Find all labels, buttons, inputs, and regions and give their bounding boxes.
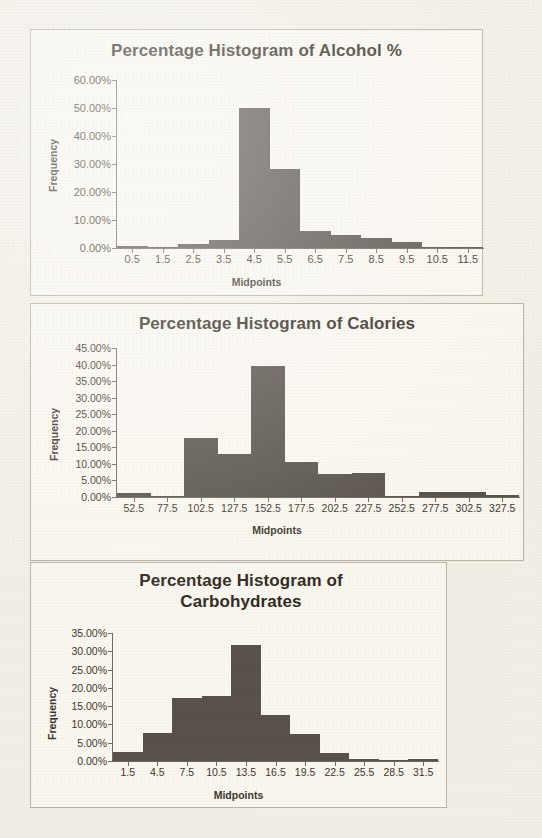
histogram-bar [361,238,392,248]
histogram-bar [331,235,362,248]
x-axis-label-calories: Midpoints [31,524,523,536]
x-axis-tick-mark [132,249,133,253]
x-axis-tick-label: 10.5 [422,253,453,265]
x-axis-tick-label: 177.5 [285,502,319,514]
x-axis-tick-label: 5.5 [270,253,301,265]
histogram-bar [231,645,261,761]
x-axis-tick-mark [305,762,306,766]
y-axis-ticks-alcohol: 0.00%10.00%20.00%30.00%40.00%50.00%60.00… [55,80,111,248]
histogram-bar [422,247,453,248]
x-axis-tick-mark [469,498,470,502]
x-axis-tick-mark [407,249,408,253]
y-axis-tick-label: 25.00% [75,408,111,420]
x-axis-tick-mark [423,762,424,766]
y-axis-tick-label: 10.00% [75,458,111,470]
y-axis-tick-label: 50.00% [74,102,111,114]
y-axis-tick-label: 15.00% [75,441,111,453]
chart-panel-carbohydrates: Percentage Histogram of Carbohydrates Fr… [30,562,447,808]
bar-series-alcohol [117,80,483,248]
y-axis-tick-label: 30.00% [71,645,107,657]
x-axis-tick-mark [285,249,286,253]
x-axis-tick-mark [254,249,255,253]
x-axis-tick-mark [301,498,302,502]
histogram-bar [117,246,148,248]
x-axis-tick-label: 2.5 [178,253,209,265]
histogram-bar [209,240,240,248]
y-axis-tick-label: 10.00% [71,718,107,730]
x-axis-tick-label: 10.5 [202,766,232,778]
x-axis-tick-label: 19.5 [290,766,320,778]
x-axis-tick-label: 31.5 [408,766,438,778]
chart-panel-alcohol: Percentage Histogram of Alcohol % Freque… [30,29,483,296]
x-axis-tick-label: 22.5 [320,766,350,778]
histogram-bar [178,244,209,248]
x-axis-tick-mark [435,498,436,502]
histogram-bar [352,473,386,497]
histogram-bar [117,493,151,497]
x-axis-tick-label: 3.5 [209,253,240,265]
x-axis-tick-mark [201,498,202,502]
x-axis-tick-label: 302.5 [452,502,486,514]
x-axis-tick-mark [437,249,438,253]
histogram-bar [385,496,419,497]
y-axis-tick-label: 60.00% [74,74,111,86]
x-axis-tick-mark [224,249,225,253]
histogram-bar [184,438,218,497]
x-axis-tick-mark [187,762,188,766]
histogram-bar [318,474,352,497]
x-axis-tick-label: 127.5 [218,502,252,514]
x-axis-tick-mark [128,762,129,766]
x-axis-tick-label: 52.5 [117,502,151,514]
x-axis-tick-mark [335,762,336,766]
y-axis-tick-label: 30.00% [75,392,111,404]
x-axis-tick-mark [167,498,168,502]
x-axis-tick-label: 327.5 [486,502,520,514]
y-axis-tick-label: 40.00% [75,359,111,371]
x-axis-tick-label: 102.5 [184,502,218,514]
x-axis-tick-label: 28.5 [379,766,409,778]
x-axis-tick-label: 227.5 [352,502,386,514]
x-axis-tick-label: 7.5 [172,766,202,778]
histogram-bar [419,492,453,497]
bar-series-calories [117,348,519,497]
y-axis-tick-label: 5.00% [77,737,107,749]
y-axis-tick-label: 45.00% [75,342,111,354]
histogram-bar [453,247,484,248]
bar-series-carbohydrates [113,633,438,761]
x-axis-tick-label: 6.5 [300,253,331,265]
x-axis-label-carbohydrates: Midpoints [31,789,446,801]
x-axis-ticks-calories: 52.577.5102.5127.5152.5177.5202.5227.525… [117,502,519,514]
x-axis-line-alcohol [116,248,484,249]
x-axis-tick-label: 9.5 [392,253,423,265]
y-axis-tick-label: 0.00% [77,755,107,767]
x-axis-tick-mark [246,762,247,766]
x-axis-tick-label: 0.5 [117,253,148,265]
histogram-bar [349,759,379,761]
x-axis-tick-label: 25.5 [349,766,379,778]
x-axis-tick-label: 4.5 [239,253,270,265]
histogram-bar [320,753,350,761]
histogram-bar [452,492,486,497]
x-axis-tick-mark [315,249,316,253]
x-axis-tick-label: 16.5 [261,766,291,778]
y-axis-tick-label: 20.00% [74,186,111,198]
histogram-bar [408,759,438,761]
histogram-bar [300,231,331,248]
histogram-bar [151,496,185,497]
y-axis-tick-label: 40.00% [74,130,111,142]
x-axis-tick-mark [368,498,369,502]
x-axis-tick-mark [268,498,269,502]
histogram-bar [270,169,301,248]
x-axis-tick-mark [346,249,347,253]
x-axis-label-alcohol: Midpoints [31,276,482,288]
x-axis-tick-label: 7.5 [331,253,362,265]
y-axis-tick-label: 30.00% [74,158,111,170]
x-axis-tick-mark [335,498,336,502]
y-axis-tick-label: 20.00% [71,682,107,694]
histogram-bar [379,760,409,761]
histogram-bar [172,698,202,761]
x-axis-tick-label: 277.5 [419,502,453,514]
histogram-bar [251,366,285,497]
x-axis-tick-mark [216,762,217,766]
histogram-bar [392,242,423,248]
